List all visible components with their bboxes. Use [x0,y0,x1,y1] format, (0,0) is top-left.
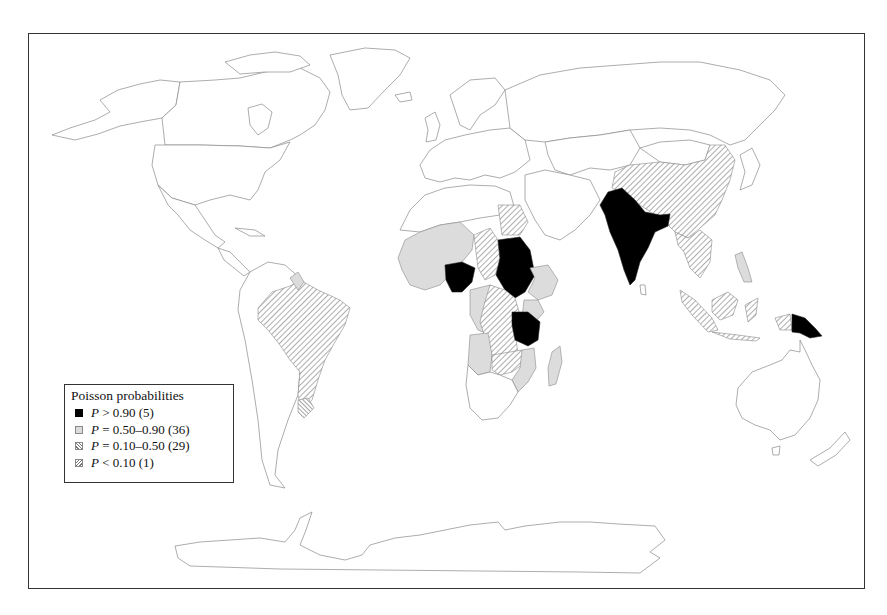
grey-swatch-icon [75,426,83,434]
nigeria [445,262,475,292]
legend-item-high: P = 0.50–0.90 (36) [71,422,227,439]
legend-symbol: P [91,405,99,420]
sri-lanka [640,285,646,295]
southern-africa [466,365,518,420]
legend-symbol: P [91,438,99,453]
oceania [736,340,850,466]
central-america [218,248,250,276]
sulawesi [745,298,758,322]
cuba [235,228,265,236]
west-papua [775,314,792,330]
hatch-swatch-icon [75,442,83,450]
indochina [675,230,712,278]
legend-item-low: P < 0.10 (1) [71,455,227,472]
borneo [712,292,738,320]
java [712,332,760,341]
black-swatch-icon [75,409,83,417]
north-america [52,48,410,276]
legend-label: > 0.90 (5) [99,405,154,420]
legend-label: < 0.10 (1) [99,455,154,470]
legend-item-very-high: P > 0.90 (5) [71,405,227,422]
legend-item-moderate: P = 0.10–0.50 (29) [71,438,227,455]
chad [474,228,500,280]
legend-label: = 0.10–0.50 (29) [99,438,190,453]
papua-new-guinea [792,314,822,338]
antarctica [175,512,665,573]
legend-title: Poisson probabilities [71,388,227,404]
greenland [330,48,410,110]
japan-korea [740,148,760,190]
legend-symbol: P [91,455,99,470]
south-america [238,262,350,488]
map-legend: Poisson probabilities P > 0.90 (5) P = 0… [64,384,234,483]
alaska [52,80,180,140]
scandinavia [450,78,505,130]
world-map [0,0,887,615]
philippines [735,252,752,282]
canada [162,68,330,148]
iceland [395,92,412,102]
ethiopia [528,265,558,300]
madagascar [548,346,562,386]
usa [152,142,290,205]
new-zealand [810,432,850,466]
uk [425,112,440,142]
australia [736,340,820,440]
egypt [498,205,528,235]
legend-symbol: P [91,422,99,437]
legend-label: = 0.50–0.90 (36) [99,422,190,437]
russia [505,62,785,145]
dense-hatch-swatch-icon [75,459,83,467]
middle-east [525,170,600,240]
tasmania [772,446,780,455]
uruguay [298,398,314,418]
